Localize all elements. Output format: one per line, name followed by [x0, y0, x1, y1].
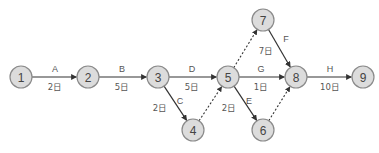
node-number: 3 [155, 71, 162, 85]
activity-duration-g: 1日 [254, 82, 268, 92]
activity-name-e: E [246, 96, 252, 106]
activity-name-b: B [119, 64, 125, 74]
node-number: 1 [18, 71, 25, 85]
node-3: 3 [147, 66, 169, 88]
node-9: 9 [352, 66, 374, 88]
node-1: 1 [10, 66, 32, 88]
node-number: 4 [190, 124, 197, 138]
activity-duration-c: 2日 [153, 103, 167, 113]
dummy-arrow-5-7 [234, 30, 257, 68]
node-number: 5 [225, 71, 232, 85]
dummy-arrow-4-5 [199, 87, 222, 121]
node-number: 8 [293, 71, 300, 85]
node-number: 9 [360, 71, 367, 85]
node-6: 6 [252, 119, 274, 141]
nodes-layer: 123456789 [10, 9, 374, 141]
node-5: 5 [217, 66, 239, 88]
node-2: 2 [77, 66, 99, 88]
activity-duration-f: 7日 [259, 46, 273, 56]
activity-name-a: A [52, 64, 58, 74]
node-4: 4 [182, 119, 204, 141]
activity-name-c: C [177, 96, 184, 106]
node-number: 2 [85, 71, 92, 85]
arrow-network-diagram: 123456789 A2日B5日C2日D5日E2日F7日G1日H10日 [0, 0, 379, 153]
activity-duration-a: 2日 [48, 82, 62, 92]
node-number: 7 [260, 14, 267, 28]
activity-name-g: G [257, 64, 264, 74]
activity-duration-d: 5日 [185, 82, 199, 92]
activity-duration-h: 10日 [320, 82, 340, 92]
node-8: 8 [285, 66, 307, 88]
activity-duration-e: 2日 [222, 103, 236, 113]
activity-name-d: D [189, 64, 196, 74]
activity-name-h: H [327, 64, 334, 74]
activity-name-f: F [283, 34, 289, 44]
node-number: 6 [260, 124, 267, 138]
node-7: 7 [252, 9, 274, 31]
activity-arrow-c [164, 86, 187, 120]
dummy-arrow-6-8 [269, 87, 290, 121]
activity-duration-b: 5日 [115, 82, 129, 92]
